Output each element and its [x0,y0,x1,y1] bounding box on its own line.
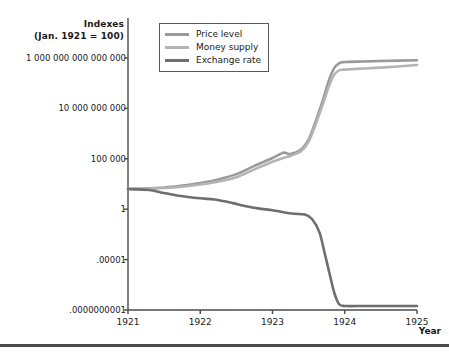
series-line-price-level [128,60,417,189]
legend-item-price-level: Price level [165,28,261,41]
chart-legend: Price level Money supply Exchange rate [159,23,269,72]
legend-label-money-supply: Money supply [196,42,258,53]
legend-swatch-exchange-rate [165,59,189,62]
legend-swatch-money-supply [165,46,189,49]
legend-swatch-price-level [165,33,189,36]
series-line-money-supply [128,65,417,189]
legend-label-price-level: Price level [196,29,242,40]
legend-item-money-supply: Money supply [165,41,261,54]
series-line-exchange-rate [128,189,417,306]
bottom-divider-rule [0,344,449,347]
legend-item-exchange-rate: Exchange rate [165,54,261,67]
hyperinflation-chart: Indexes (Jan. 1921 = 100) 1 000 000 000 … [0,0,449,358]
legend-label-exchange-rate: Exchange rate [196,55,261,66]
